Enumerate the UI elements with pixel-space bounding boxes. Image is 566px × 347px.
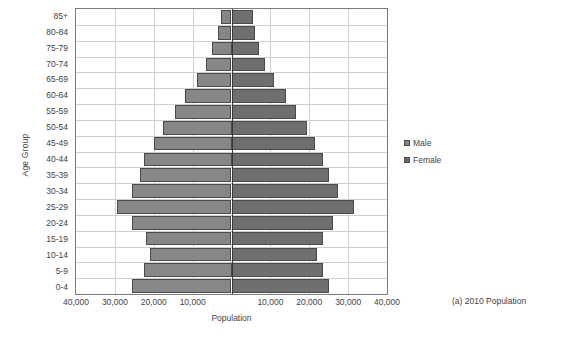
y-tick-label: 20-24 (20, 215, 72, 231)
y-tick-label: 30-34 (20, 183, 72, 199)
zero-axis-line (76, 9, 387, 294)
y-tick-label: 15-19 (20, 231, 72, 247)
y-tick-label: 40-44 (20, 151, 72, 167)
population-pyramid-figure: Age Group 85+80-8475-7970-7465-6960-6455… (0, 0, 566, 347)
y-tick-label: 25-29 (20, 199, 72, 215)
x-tick-label: 40,000 (63, 297, 89, 307)
x-tick-label: 20,000 (141, 297, 167, 307)
y-tick-label: 75-79 (20, 40, 72, 56)
legend: MaleFemale (404, 138, 441, 172)
legend-label: Female (413, 155, 441, 165)
y-tick-label: 70-74 (20, 56, 72, 72)
x-axis-title: Population (75, 313, 388, 323)
y-tick-label: 85+ (20, 8, 72, 24)
x-tick-label: 20,000 (296, 297, 322, 307)
legend-swatch-female-icon (404, 157, 410, 163)
y-tick-label: 50-54 (20, 120, 72, 136)
x-tick-label: 10,000 (257, 297, 283, 307)
x-tick-label: 10,000 (180, 297, 206, 307)
x-tick-label: 30,000 (335, 297, 361, 307)
x-tick-label: 30,000 (102, 297, 128, 307)
y-axis-tick-labels: 85+80-8475-7970-7465-6960-6455-5950-5445… (20, 8, 72, 295)
legend-item-male[interactable]: Male (404, 138, 441, 148)
y-tick-label: 0-4 (20, 279, 72, 295)
axis-line-zero (232, 9, 233, 294)
y-tick-label: 5-9 (20, 263, 72, 279)
y-tick-label: 65-69 (20, 72, 72, 88)
legend-item-female[interactable]: Female (404, 155, 441, 165)
y-tick-label: 60-64 (20, 88, 72, 104)
y-tick-label: 35-39 (20, 167, 72, 183)
x-axis-tick-labels: 40,00030,00020,00010,00010,00020,00030,0… (75, 297, 388, 309)
plot-area (75, 8, 388, 295)
figure-caption: (a) 2010 Population (452, 296, 526, 306)
y-tick-label: 45-49 (20, 136, 72, 152)
legend-swatch-male-icon (404, 140, 410, 146)
y-tick-label: 10-14 (20, 247, 72, 263)
y-tick-label: 80-84 (20, 24, 72, 40)
legend-label: Male (413, 138, 431, 148)
y-tick-label: 55-59 (20, 104, 72, 120)
x-tick-label: 40,000 (374, 297, 400, 307)
